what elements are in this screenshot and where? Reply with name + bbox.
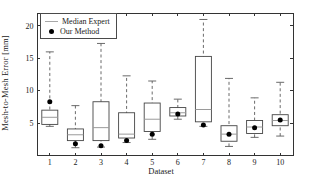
y-axis-label: Mesh-to-Mesh Error [mm] [0,17,12,149]
y-tick-label: 5 [30,119,34,128]
boxplot-dataset-7 [195,19,211,127]
y-tick-label: 20 [26,22,34,31]
boxplot-dataset-6 [170,99,186,119]
boxplot-dataset-1 [42,52,58,126]
iqr-box [93,102,109,141]
our-method-marker [175,112,180,117]
our-method-marker [47,99,52,104]
boxplot-dataset-2 [67,106,83,148]
iqr-box [144,103,160,132]
our-method-marker [278,117,283,122]
our-method-marker [99,143,104,148]
legend: Median Expert Our Method [40,13,117,39]
our-method-marker [201,123,206,128]
median-line-icon [45,21,58,22]
our-method-marker [252,125,257,130]
our-method-marker [73,141,78,146]
boxplot-dataset-8 [221,78,237,146]
our-method-marker [124,138,129,143]
our-method-marker [150,132,155,137]
legend-label-our-method: Our Method [60,27,99,36]
legend-item-median-expert: Median Expert [45,16,110,26]
legend-item-our-method: Our Method [45,26,110,36]
boxplot-figure: 123456789105101520 Mesh-to-Mesh Error [m… [0,0,309,182]
x-axis-label: Dataset [37,166,285,176]
boxplot-dataset-3 [93,43,109,148]
boxplot-dataset-4 [119,76,135,143]
boxplot-dataset-9 [247,98,263,138]
iqr-box [195,56,211,121]
y-tick-label: 10 [26,86,34,95]
our-method-marker [227,132,232,137]
boxplot-dataset-5 [144,81,160,139]
legend-label-median-expert: Median Expert [62,17,110,26]
y-tick-label: 15 [26,54,34,63]
boxplot-dataset-10 [272,82,288,136]
filled-circle-marker-icon [49,29,54,34]
